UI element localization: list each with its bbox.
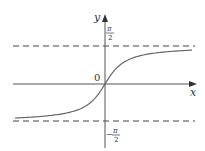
chart-canvas: y x 0 π 2 − π 2 — [0, 0, 205, 151]
svg-text:2: 2 — [108, 34, 112, 42]
origin-label: 0 — [94, 72, 100, 83]
lower-asymptote-label: − π 2 — [106, 127, 120, 144]
x-axis-label: x — [190, 86, 197, 99]
upper-asymptote-label: π 2 — [106, 25, 114, 42]
svg-text:π: π — [106, 25, 112, 33]
arctan-chart: y x 0 π 2 − π 2 — [0, 0, 205, 151]
svg-text:2: 2 — [114, 136, 118, 144]
svg-text:−: − — [106, 130, 113, 139]
y-axis-arrow-icon — [102, 14, 108, 22]
y-axis-label: y — [93, 11, 101, 24]
svg-text:π: π — [112, 127, 118, 135]
